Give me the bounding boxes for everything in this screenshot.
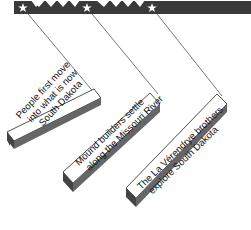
timeline-diagram: People first move into what is now South…: [0, 0, 251, 230]
timeline-bar: [14, 0, 251, 14]
event-card-1: People first move into what is now South…: [7, 59, 101, 149]
